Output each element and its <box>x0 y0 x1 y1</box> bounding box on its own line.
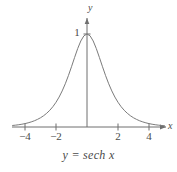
x-tick-label-4: 4 <box>139 131 159 142</box>
x-tick-label-minus4: −4 <box>15 131 35 142</box>
sech-curve <box>13 34 165 126</box>
y-tick-label-1: 1 <box>72 27 82 38</box>
x-tick-label-minus2: −2 <box>46 131 66 142</box>
figure-sech-graph: y x 1 −4 −2 2 4 y = sech x <box>0 0 177 172</box>
figure-caption: y = sech x <box>0 148 177 163</box>
plot-area <box>0 0 177 172</box>
x-axis-label: x <box>168 121 172 131</box>
y-axis-arrowhead <box>85 18 90 24</box>
x-tick-label-2: 2 <box>108 131 128 142</box>
y-axis-label: y <box>88 3 92 13</box>
